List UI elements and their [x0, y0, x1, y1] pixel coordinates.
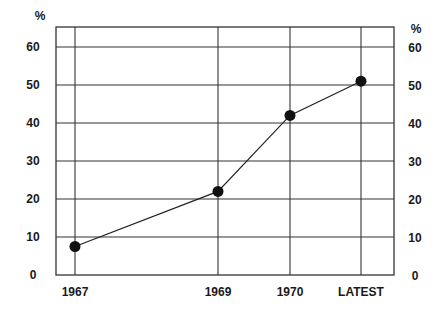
- y-tick-right: 0: [412, 269, 419, 283]
- data-point-marker: [213, 186, 224, 197]
- y-tick-left: 10: [26, 230, 40, 244]
- data-point-marker: [285, 110, 296, 121]
- axis-labels: % % 001010202030304040505060601967196919…: [26, 9, 422, 299]
- y-tick-right: 10: [408, 231, 422, 245]
- plot-frame: [56, 27, 394, 275]
- left-axis-unit: %: [35, 9, 46, 23]
- x-tick: 1970: [277, 285, 304, 299]
- y-tick-left: 40: [26, 116, 40, 130]
- y-tick-right: 50: [408, 79, 422, 93]
- y-tick-left: 60: [26, 40, 40, 54]
- data-point-marker: [356, 76, 367, 87]
- y-tick-right: 30: [408, 155, 422, 169]
- x-tick: 1967: [62, 285, 89, 299]
- y-tick-right: 20: [408, 193, 422, 207]
- x-tick: LATEST: [338, 285, 384, 299]
- grid: [56, 27, 394, 275]
- y-tick-left: 0: [30, 268, 37, 282]
- y-tick-right: 40: [408, 117, 422, 131]
- y-tick-right: 60: [408, 41, 422, 55]
- y-tick-left: 50: [26, 78, 40, 92]
- y-tick-left: 30: [26, 154, 40, 168]
- right-axis-unit: %: [411, 22, 422, 36]
- y-tick-left: 20: [26, 192, 40, 206]
- data-point-marker: [70, 241, 81, 252]
- x-tick: 1969: [205, 285, 232, 299]
- line-chart: % % 001010202030304040505060601967196919…: [0, 0, 447, 313]
